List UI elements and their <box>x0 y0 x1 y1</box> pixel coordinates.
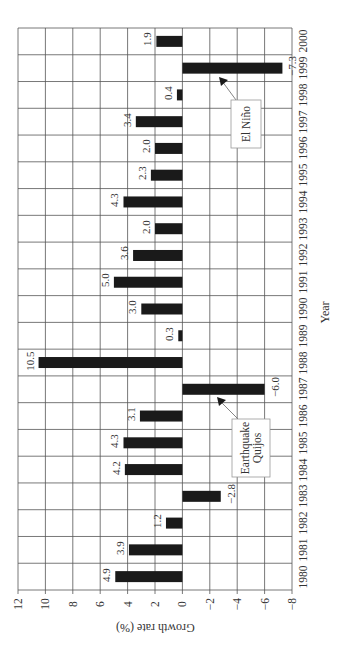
value-label-1991: 5.0 <box>99 273 111 287</box>
bar-1993 <box>155 223 182 234</box>
year-label-1988: 1988 <box>296 351 308 374</box>
value-tick-label: 6 <box>94 601 106 607</box>
year-label-1987: 1987 <box>296 378 308 401</box>
value-label-1993: 2.0 <box>140 220 152 234</box>
value-label-1997: 3.4 <box>121 113 133 127</box>
year-label-1994: 1994 <box>296 190 308 213</box>
year-label-1996: 1996 <box>296 137 308 160</box>
annotation-text: Earthquake <box>239 422 251 474</box>
annotation-text: El Niño <box>240 106 252 142</box>
bar-1980 <box>115 571 182 582</box>
value-label-2000: 1.9 <box>141 33 153 47</box>
year-label-1998: 1998 <box>296 83 308 106</box>
arrowhead-icon <box>217 397 226 406</box>
value-label-1994: 4.3 <box>108 193 120 207</box>
bar-1990 <box>141 304 182 315</box>
bar-1996 <box>155 143 182 154</box>
year-label-1984: 1984 <box>296 458 308 481</box>
bar-1985 <box>123 437 182 448</box>
value-tick-label: −6 <box>259 598 271 610</box>
value-label-1983: −2.8 <box>225 484 237 504</box>
year-label-1980: 1980 <box>296 565 308 588</box>
year-label-1997: 1997 <box>296 110 308 133</box>
year-label-1986: 1986 <box>296 405 308 428</box>
year-label-1995: 1995 <box>296 164 308 187</box>
growth-rate-bar-chart: 1980198119821983198419851986198719881989… <box>0 0 343 652</box>
year-label-1989: 1989 <box>296 324 308 347</box>
value-tick-label: 0 <box>176 601 188 607</box>
year-label-1992: 1992 <box>296 244 308 267</box>
bar-1982 <box>166 518 182 529</box>
value-label-1985: 4.3 <box>108 434 120 448</box>
value-label-1984: 4.2 <box>110 461 122 475</box>
bar-1987 <box>182 384 264 395</box>
annotation-leader-line <box>220 401 238 419</box>
year-label-1990: 1990 <box>296 298 308 321</box>
year-label-2000: 2000 <box>296 30 308 53</box>
year-label-1985: 1985 <box>296 431 308 454</box>
value-label-1992: 3.6 <box>118 247 130 261</box>
value-label-1999: −7.3 <box>286 56 298 76</box>
annotation-leader-line <box>222 81 236 100</box>
bar-2000 <box>156 36 182 47</box>
bar-1984 <box>125 464 183 475</box>
bar-1981 <box>129 544 182 555</box>
annotation-text: Quijos <box>251 433 263 464</box>
bar-1992 <box>133 250 182 261</box>
value-label-1982: 1.2 <box>151 514 163 528</box>
value-tick-label: −8 <box>286 598 298 610</box>
bar-1997 <box>136 116 183 127</box>
value-label-1995: 2.3 <box>136 166 148 180</box>
value-label-1980: 4.9 <box>100 568 112 582</box>
value-tick-label: −4 <box>231 598 243 610</box>
bar-1998 <box>177 89 182 100</box>
bar-1983 <box>182 491 220 502</box>
value-tick-label: 8 <box>67 601 79 607</box>
x-axis-title: Year <box>318 301 333 323</box>
value-label-1989: 0.3 <box>163 327 175 341</box>
bar-1999 <box>182 63 282 74</box>
value-tick-label: 12 <box>12 598 24 610</box>
value-label-1986: 3.1 <box>125 407 137 421</box>
year-label-1983: 1983 <box>296 485 308 508</box>
bar-1995 <box>151 170 183 181</box>
bar-1988 <box>39 357 183 368</box>
value-label-1996: 2.0 <box>140 140 152 154</box>
value-label-1990: 3.0 <box>126 300 138 314</box>
y-axis-title: Growth rate (%) <box>116 620 195 635</box>
value-label-1987: −6.0 <box>269 377 281 397</box>
bar-1989 <box>178 330 182 341</box>
value-tick-label: −2 <box>204 598 216 610</box>
value-tick-label: 2 <box>149 601 161 607</box>
value-label-1988: 10.5 <box>24 351 36 370</box>
year-label-1993: 1993 <box>296 217 308 240</box>
year-label-1981: 1981 <box>296 538 308 561</box>
bar-1986 <box>140 411 182 422</box>
year-label-1991: 1991 <box>296 271 308 294</box>
bar-1991 <box>114 277 182 288</box>
bar-1994 <box>123 196 182 207</box>
value-tick-label: 4 <box>121 601 133 607</box>
value-label-1998: 0.4 <box>162 86 174 100</box>
value-tick-label: 10 <box>39 598 51 610</box>
value-label-1981: 3.9 <box>114 541 126 555</box>
year-label-1982: 1982 <box>296 512 308 535</box>
